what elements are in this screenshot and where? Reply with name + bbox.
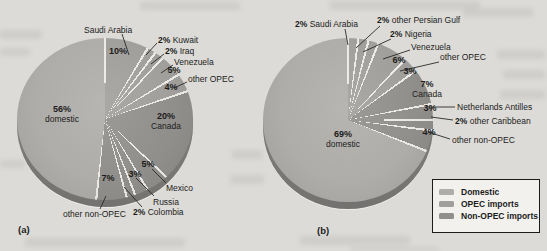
value-a-russia-pct: 3% xyxy=(123,170,147,179)
label-b-nigeria: 2% Nigeria xyxy=(390,30,432,39)
label-a-russia: Russia xyxy=(153,198,179,207)
legend-row-domestic: Domestic xyxy=(439,186,539,198)
value-a-other-opec-pct: 4% xyxy=(159,83,183,92)
label-b-domestic-name: domestic xyxy=(308,140,378,149)
scan-artifact xyxy=(230,175,264,184)
label-b-venezuela: Venezuela xyxy=(411,43,451,52)
scan-artifact xyxy=(140,2,240,10)
label-b-other-persian-gulf: 2% other Persian Gulf xyxy=(377,16,460,25)
label-b-netherlands-antilles: Netherlands Antilles xyxy=(457,103,532,112)
label-b-other-opec: other OPEC xyxy=(440,53,486,62)
label-a-domestic: 56% domestic xyxy=(27,105,97,124)
label-a-iraq: 2% Iraq xyxy=(165,47,194,56)
label-a-other-opec: other OPEC xyxy=(188,75,234,84)
label-a-colombia: 2% Colombia xyxy=(133,208,184,217)
value-a-venezuela-pct: 5% xyxy=(162,66,186,75)
scan-artifact xyxy=(0,30,42,39)
legend-swatch-opec-imports xyxy=(439,201,454,208)
label-a-canada-name: Canada xyxy=(131,122,201,131)
value-b-other-opec-pct: 3% xyxy=(398,67,422,76)
legend-row-non-opec-imports: Non-OPEC imports xyxy=(439,210,539,222)
value-b-venezuela-pct: 6% xyxy=(387,56,411,65)
label-b-canada-name: Canada xyxy=(402,90,452,99)
scan-artifact xyxy=(300,236,410,245)
label-b-other-non-opec: other non-OPEC xyxy=(452,136,515,145)
label-a-domestic-name: domestic xyxy=(27,115,97,124)
label-a-saudi-arabia: Saudi Arabia xyxy=(84,26,132,35)
scan-artifact xyxy=(497,50,545,59)
value-a-mexico-pct: 5% xyxy=(136,160,160,169)
scan-artifact xyxy=(463,8,533,17)
legend-label-domestic: Domestic xyxy=(461,188,499,197)
value-b-netherlands-antilles-pct: 3% xyxy=(418,104,442,113)
label-b-domestic: 69% domestic xyxy=(308,130,378,149)
leader-line-b-other-caribbean xyxy=(431,117,453,120)
scan-artifact xyxy=(25,238,185,247)
legend: Domestic OPEC imports Non-OPEC imports xyxy=(432,179,540,233)
label-a-mexico: Mexico xyxy=(166,184,193,193)
legend-label-opec-imports: OPEC imports xyxy=(461,200,519,209)
label-a-other-non-opec: other non-OPEC xyxy=(63,210,126,219)
label-b-canada: 7% Canada xyxy=(402,80,452,99)
scan-artifact xyxy=(503,70,545,79)
label-a-kuwait: 2% Kuwait xyxy=(158,36,198,45)
caption-a: (a) xyxy=(18,224,30,235)
scan-artifact xyxy=(330,1,480,10)
label-a-canada: 20% Canada xyxy=(131,112,201,131)
value-b-other-non-opec-pct: 4% xyxy=(417,128,441,137)
legend-label-non-opec-imports: Non-OPEC imports xyxy=(461,212,538,221)
figure-oil-sources: Saudi Arabia 10% 2% Kuwait 2% Iraq Venez… xyxy=(0,0,547,251)
scan-artifact xyxy=(232,150,262,159)
scan-artifact xyxy=(500,90,545,99)
legend-row-opec-imports: OPEC imports xyxy=(439,198,539,210)
caption-b: (b) xyxy=(317,225,329,236)
label-b-other-caribbean: 2% other Caribbean xyxy=(455,117,531,126)
value-a-other-non-opec-pct: 7% xyxy=(96,174,120,183)
scan-artifact xyxy=(350,247,440,251)
value-a-saudi-pct: 10% xyxy=(106,47,130,56)
scan-artifact xyxy=(0,48,30,56)
legend-swatch-non-opec-imports xyxy=(439,213,454,220)
label-b-saudi-arabia: 2% Saudi Arabia xyxy=(295,20,358,29)
scan-artifact xyxy=(0,160,25,168)
legend-swatch-domestic xyxy=(439,189,454,196)
